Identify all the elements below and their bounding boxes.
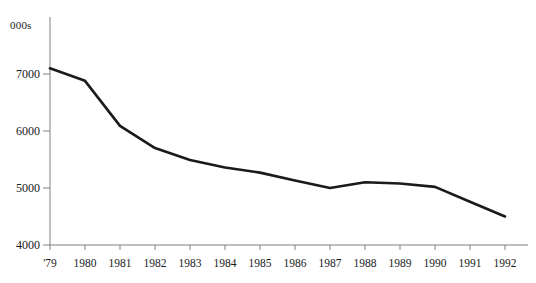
y-axis-ticks	[43, 74, 50, 245]
x-axis-ticks	[50, 245, 505, 250]
line-chart: 000s 7000 6000 5000 4000 '79 1980 1981 1…	[0, 0, 536, 283]
chart-plot-area	[0, 0, 536, 283]
data-series-line	[50, 68, 505, 216]
axis-lines	[50, 17, 528, 245]
